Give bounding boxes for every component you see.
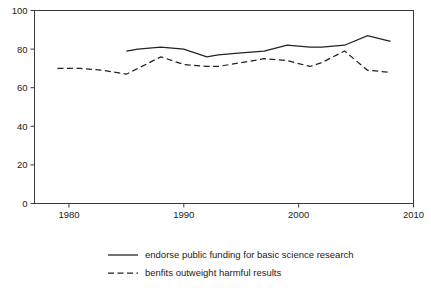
legend-label: benfits outweight harmful results [145, 267, 281, 278]
legend-label: endorse public funding for basic science… [145, 249, 354, 260]
y-tick-label: 40 [17, 121, 28, 132]
chart-container: 020406080100 1980199020002010 endorse pu… [0, 0, 431, 288]
x-tick-label: 1980 [58, 209, 79, 220]
x-tick-label: 2000 [288, 209, 309, 220]
y-tick-label: 20 [17, 159, 28, 170]
line-chart: 020406080100 1980199020002010 endorse pu… [0, 0, 431, 288]
x-tick-label: 2010 [403, 209, 424, 220]
x-tick-label: 1990 [173, 209, 194, 220]
chart-background [0, 0, 431, 288]
y-tick-label: 80 [17, 44, 28, 55]
y-tick-label: 0 [22, 198, 27, 209]
y-tick-label: 60 [17, 82, 28, 93]
y-tick-label: 100 [12, 5, 28, 16]
